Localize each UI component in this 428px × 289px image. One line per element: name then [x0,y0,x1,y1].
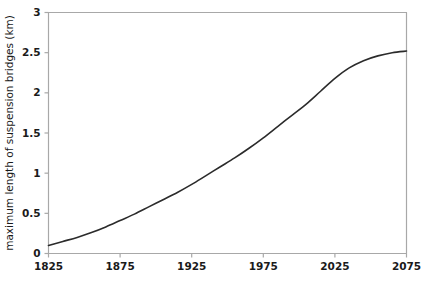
y-tick-label: 2 [33,86,40,98]
y-tick-label: 1 [33,167,40,179]
x-tick-label: 1875 [105,260,134,272]
y-tick-label: 1.5 [22,127,41,139]
y-axis-title: maximum length of suspension bridges (km… [3,15,15,251]
y-tick-label: 2.5 [22,46,41,58]
y-tick-label: 0 [33,247,40,259]
chart-background [0,0,428,289]
x-tick-label: 1825 [34,260,63,272]
x-tick-label: 2025 [320,260,349,272]
y-tick-label: 0.5 [22,207,41,219]
x-tick-label: 1925 [177,260,206,272]
chart-figure: 00.511.522.53 182518751925197520252075 m… [0,0,428,289]
y-tick-label: 3 [33,6,40,18]
x-tick-label: 2075 [392,260,421,272]
line-chart: 00.511.522.53 182518751925197520252075 m… [0,0,428,289]
x-tick-label: 1975 [249,260,278,272]
